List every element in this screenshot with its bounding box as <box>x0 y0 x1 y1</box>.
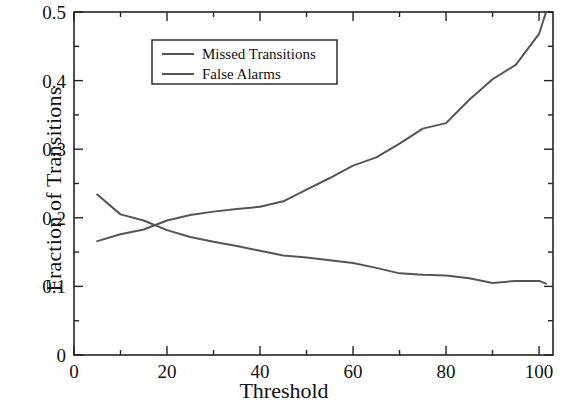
plot-area: 02040608010000.10.20.30.40.5 Missed Tran… <box>0 0 568 413</box>
svg-text:False Alarms: False Alarms <box>202 66 281 82</box>
x-axis-label: Threshold <box>0 378 568 404</box>
svg-text:Missed Transitions: Missed Transitions <box>202 46 316 62</box>
chart-legend: Missed TransitionsFalse Alarms <box>152 40 337 84</box>
svg-text:0: 0 <box>57 345 67 366</box>
series-line-1 <box>97 194 546 283</box>
svg-text:0.5: 0.5 <box>42 2 66 23</box>
chart-figure: 02040608010000.10.20.30.40.5 Missed Tran… <box>0 0 568 413</box>
y-axis-label: Fraction of Transitions <box>41 39 67 339</box>
